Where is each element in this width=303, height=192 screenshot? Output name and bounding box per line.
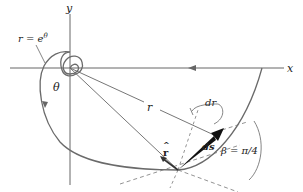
x-axis-flow-arrow-icon <box>188 65 196 71</box>
theta-label: θ <box>53 81 60 94</box>
dr-label: dr <box>205 97 217 108</box>
radius-label: r <box>147 101 153 114</box>
dr-tick <box>190 108 193 115</box>
log-spiral-diagram: x y r = eθ θ r dr r ^ ds β = π/4 <box>0 0 303 192</box>
y-axis-label: y <box>65 2 73 15</box>
radius-line-outer <box>70 68 144 102</box>
curve-equation-label: r = eθ <box>18 32 48 44</box>
normal-dashed-line-down <box>170 170 178 188</box>
x-axis-label: x <box>287 62 294 75</box>
radius-line-outer-2 <box>160 110 214 135</box>
ds-label: ds <box>202 141 215 152</box>
beta-label: β = π/4 <box>220 145 258 156</box>
unit-r-hat: ^ <box>163 139 170 149</box>
radius-line-to-point <box>70 68 178 170</box>
curve-label-leader <box>36 45 45 63</box>
radial-dashed-line <box>178 170 238 192</box>
